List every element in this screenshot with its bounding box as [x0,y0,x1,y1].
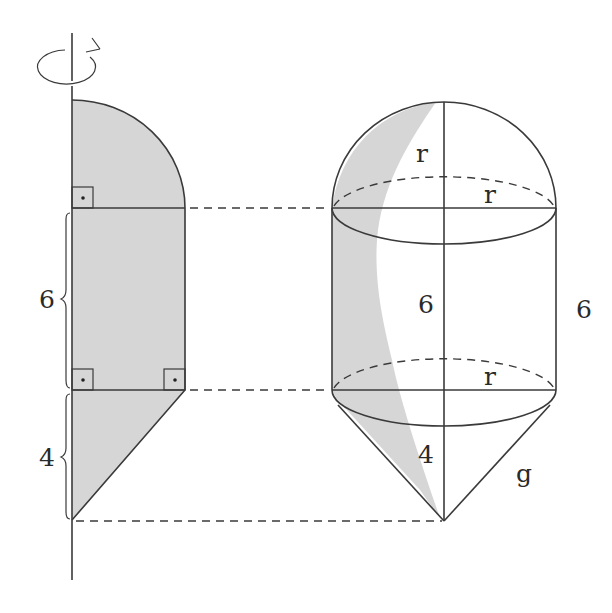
solid: r r 6 6 r 4 g [332,102,592,521]
rotation-arrow-icon [38,38,100,84]
brace-cylinder [61,213,70,388]
shaded-region [72,100,185,520]
hemisphere-radius-label: r [416,139,428,168]
cone-height-label-solid: 4 [418,440,434,469]
cylinder-height-label: 6 [39,285,55,314]
plane-region: 6 4 [38,33,185,580]
inner-height-label: 6 [418,290,434,319]
solid-of-revolution-diagram: 6 4 r r 6 6 r 4 g [0,0,612,613]
cone-height-label: 4 [39,443,55,472]
bottom-radius-label: r [484,362,496,391]
slant-height-label: g [516,459,532,488]
brace-cone [61,394,70,519]
outer-height-label: 6 [576,295,592,324]
top-radius-label: r [484,180,496,209]
